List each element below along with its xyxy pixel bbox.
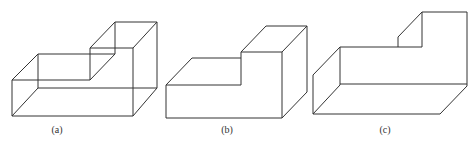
figure-a-label: (a) (51, 124, 62, 135)
figure-b-solid (166, 26, 307, 118)
figure-b-label: (b) (221, 124, 233, 135)
figure-c-label: (c) (379, 124, 390, 135)
step-block-diagrams (0, 0, 475, 151)
figure-c-shell (313, 12, 467, 114)
figure-a-wireframe (12, 22, 157, 116)
